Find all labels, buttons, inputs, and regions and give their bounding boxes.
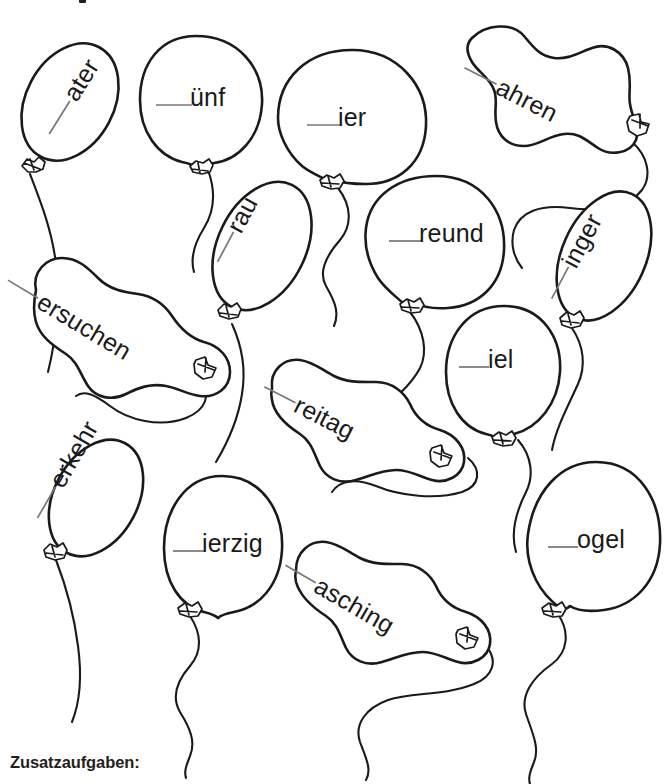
word-text-reund: reund bbox=[419, 219, 484, 247]
string-ier bbox=[323, 188, 349, 326]
balloon-erkehr[interactable]: erkehr bbox=[25, 416, 163, 573]
word-text-uenf: ünf bbox=[190, 83, 225, 111]
footer-heading: Zusatzaufgaben: bbox=[10, 753, 650, 771]
string-uenf bbox=[192, 170, 212, 272]
word-text-iel: iel bbox=[488, 345, 514, 373]
balloon-knot-erkehr bbox=[44, 543, 67, 560]
balloon-ahren[interactable]: ahren bbox=[458, 26, 649, 152]
balloon-knot-ogel bbox=[542, 602, 566, 617]
balloon-inger[interactable]: inger bbox=[538, 177, 670, 335]
string-erkehr bbox=[56, 560, 80, 722]
balloon-reitag[interactable]: reitag bbox=[258, 360, 464, 482]
worksheet-page: ater ünf ier ahren bbox=[0, 0, 672, 784]
balloon-ierzig[interactable]: ierzig bbox=[164, 476, 282, 618]
balloon-knot-ahren bbox=[627, 114, 649, 136]
balloon-ersuchen[interactable]: ersuchen bbox=[1, 258, 230, 398]
balloon-reund[interactable]: reund bbox=[366, 176, 505, 313]
balloon-iel[interactable]: iel bbox=[446, 306, 560, 446]
balloon-ogel[interactable]: ogel bbox=[527, 462, 660, 617]
balloon-body-ahren bbox=[468, 26, 638, 152]
balloon-body-iel bbox=[446, 306, 560, 440]
balloon-ater[interactable]: ater bbox=[2, 27, 138, 178]
balloon-knot-inger bbox=[560, 311, 584, 328]
word-text-ogel: ogel bbox=[577, 525, 625, 553]
balloon-knot-ater bbox=[22, 157, 45, 172]
footer-block: Zusatzaufgaben: bbox=[10, 753, 650, 784]
balloon-ier[interactable]: ier bbox=[278, 50, 426, 189]
blank-rule-ersuchen bbox=[8, 280, 38, 298]
word-text-ier: ier bbox=[338, 103, 366, 131]
balloon-knot-ierzig bbox=[178, 602, 202, 617]
string-rau bbox=[216, 324, 244, 462]
balloon-asching[interactable]: asching bbox=[278, 542, 490, 664]
word-text-ierzig: ierzig bbox=[202, 529, 263, 557]
balloon-uenf[interactable]: ünf bbox=[140, 36, 262, 174]
balloon-illustration: ater ünf ier ahren bbox=[0, 0, 672, 784]
footer-sub-line bbox=[28, 775, 650, 784]
